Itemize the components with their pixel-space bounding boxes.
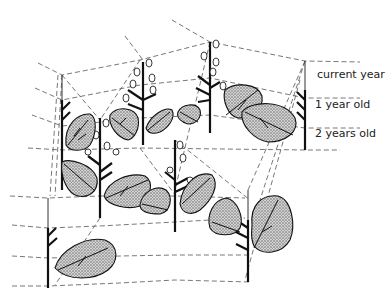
stem-front-right [236,190,248,282]
diagram-canvas: current year 1 year old 2 years old [0,0,392,298]
stem-front-left [48,198,57,288]
plant-back-right [196,40,226,133]
label-current-year: current year [317,68,385,81]
plant-diagram [0,0,392,298]
label-one-year-old: 1 year old [315,98,370,111]
label-two-years-old: 2 years old [315,127,376,140]
reference-stem [297,61,305,150]
